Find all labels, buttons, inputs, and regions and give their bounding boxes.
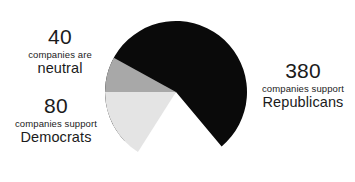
pie-label-democrats-value: 80 (0, 95, 112, 118)
pie-label-neutral-description: companies are (8, 50, 112, 60)
pie-label-republicans: 380 companies support Republicans (253, 60, 353, 111)
pie-label-neutral-value: 40 (8, 26, 112, 49)
pie-label-republicans-description: companies support (253, 84, 353, 94)
pie-label-neutral-category: neutral (8, 61, 112, 77)
pie-slices (105, 21, 247, 152)
pie-chart-figure: 40 companies are neutral 80 companies su… (0, 0, 355, 182)
pie-label-republicans-category: Republicans (253, 95, 353, 111)
pie-label-democrats-category: Democrats (0, 130, 112, 146)
pie-label-neutral: 40 companies are neutral (8, 26, 112, 77)
pie-label-republicans-value: 380 (253, 60, 353, 83)
pie-label-democrats: 80 companies support Democrats (0, 95, 112, 146)
pie-slice-democrats[interactable] (105, 92, 176, 152)
pie-label-democrats-description: companies support (0, 119, 112, 129)
